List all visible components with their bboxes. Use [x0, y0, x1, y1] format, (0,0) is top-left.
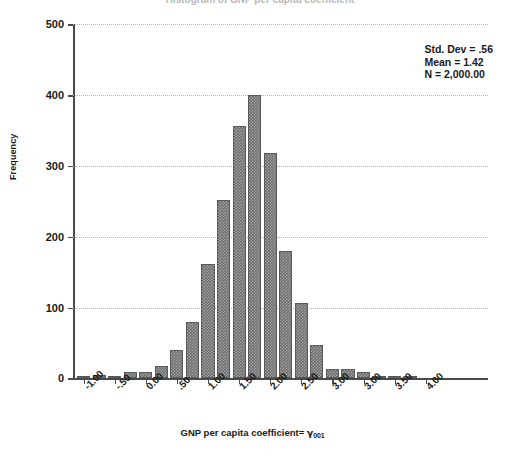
histogram-bar — [279, 251, 292, 378]
gridline — [73, 24, 488, 25]
gamma-subscript: 001 — [313, 432, 324, 439]
histogram-bar — [201, 264, 214, 379]
histogram-bar — [264, 153, 277, 378]
histogram-bar — [217, 200, 230, 378]
histogram-bar — [233, 126, 246, 379]
y-axis-line — [73, 24, 75, 380]
gridline — [73, 237, 488, 238]
y-axis-tick-label: 100 — [46, 302, 64, 314]
mean-text: Mean = 1.42 — [424, 56, 493, 69]
y-axis-tick — [68, 24, 73, 25]
y-axis-tick — [68, 237, 73, 238]
y-axis-tick-label: 200 — [46, 231, 64, 243]
y-axis-tick-label: 500 — [46, 18, 64, 30]
gridline — [73, 166, 488, 167]
histogram-bar — [248, 95, 261, 378]
y-axis-tick — [68, 95, 73, 96]
histogram-figure: Histogram of GNP per capita coefficient … — [0, 0, 505, 458]
y-axis-tick — [68, 166, 73, 167]
x-axis-title-text: GNP per capita coefficient= — [181, 427, 307, 438]
n-text: N = 2,000.00 — [424, 68, 493, 81]
x-axis-title: GNP per capita coefficient= γ001 — [0, 427, 505, 439]
gridline — [73, 95, 488, 96]
y-axis-tick-label: 400 — [46, 89, 64, 101]
std-dev-text: Std. Dev = .56 — [424, 43, 493, 56]
histogram-bar — [170, 350, 183, 378]
y-axis-title: Frequency — [8, 134, 18, 180]
figure-title: Histogram of GNP per capita coefficient — [110, 0, 410, 8]
statistics-annotation: Std. Dev = .56 Mean = 1.42 N = 2,000.00 — [424, 43, 493, 81]
y-axis-tick — [68, 378, 73, 379]
y-axis-tick-label: 0 — [58, 372, 64, 384]
y-axis-tick — [68, 308, 73, 309]
histogram-bar — [186, 322, 199, 379]
histogram-bar — [295, 303, 308, 379]
y-axis-tick-label: 300 — [46, 160, 64, 172]
